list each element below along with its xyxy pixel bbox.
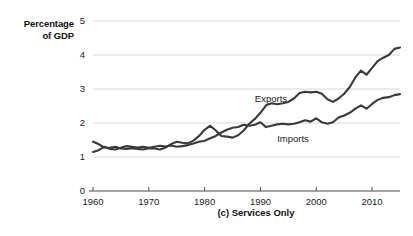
y-tick-label: 3 [69,84,85,94]
chart-figure: Percentage of GDP 012345 196019701980199… [0,0,413,236]
y-tick-label: 0 [69,186,85,196]
figure-caption: (c) Services Only [136,207,376,218]
y-tick-label: 2 [69,118,85,128]
series-line-exports [93,48,400,150]
series-lines [93,48,400,152]
x-tick-label: 1980 [185,197,225,207]
x-tick-label: 2010 [352,197,392,207]
gridlines [93,21,400,157]
y-tick-label: 5 [69,16,85,26]
series-label-exports: Exports [255,93,287,104]
x-tick-label: 1970 [129,197,169,207]
y-tick-label: 4 [69,50,85,60]
x-tick-label: 1960 [73,197,113,207]
y-tick-label: 1 [69,152,85,162]
x-tick-label: 2000 [296,197,336,207]
series-label-imports: Imports [277,133,309,144]
x-tick-label: 1990 [240,197,280,207]
